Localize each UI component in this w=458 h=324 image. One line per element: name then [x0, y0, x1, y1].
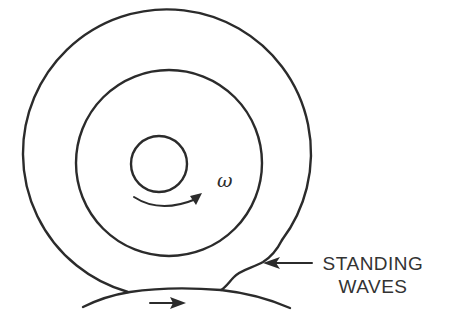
outer-tire-circle: [23, 9, 311, 292]
rotation-arrowhead-icon: [190, 193, 202, 205]
hub-circle: [131, 136, 187, 192]
standing-label-line2: WAVES: [308, 275, 438, 298]
standing-label-line1: STANDING: [308, 252, 438, 275]
inner-rim-circle: [76, 70, 262, 256]
omega-symbol: ω: [217, 169, 233, 191]
rotation-arrow: [134, 197, 196, 206]
road-surface: [83, 288, 290, 308]
standing-waves-label: STANDING WAVES: [308, 252, 438, 298]
